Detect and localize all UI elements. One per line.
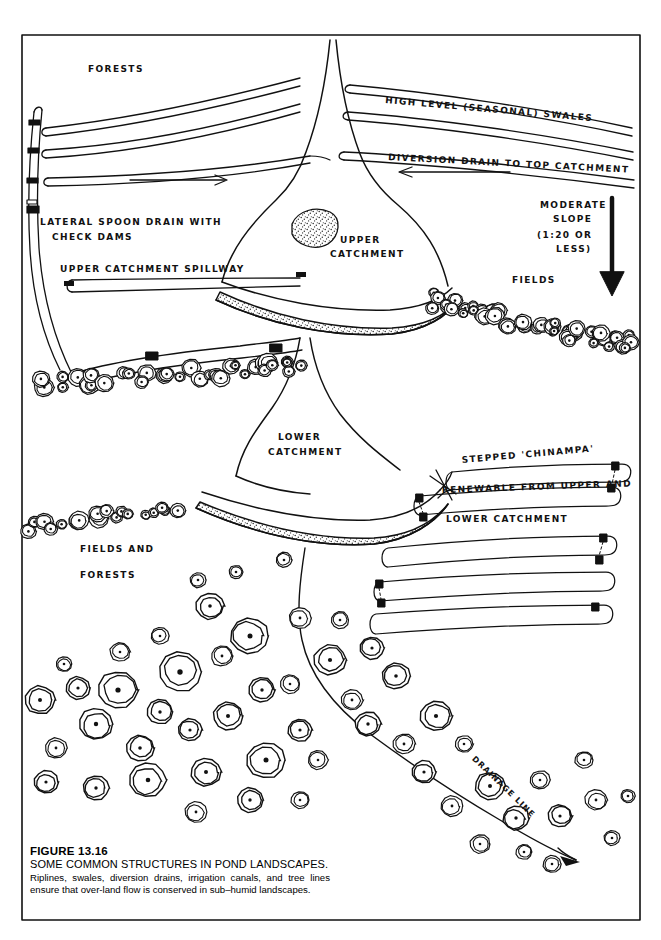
label-lower-catchment-chinampa: LOWER CATCHMENT <box>446 514 568 524</box>
figure-caption-text: Riplines, swales, diversion drains, irri… <box>30 872 330 895</box>
label-forests-top: FORESTS <box>88 64 144 74</box>
label-moderate-slope-line1: MODERATE <box>540 200 607 210</box>
upper-drain-tie <box>310 156 330 160</box>
tree-plan-circle-icon-group <box>21 288 640 872</box>
label-fields-forests-line2: FORESTS <box>80 570 136 580</box>
label-diversion-drain: DIVERSION DRAIN TO TOP CATCHMENT <box>388 152 630 175</box>
label-lateral-drain-line2: CHECK DAMS <box>52 232 133 242</box>
label-fields-right: FIELDS <box>512 275 556 285</box>
label-upper-spillway: UPPER CATCHMENT SPILLWAY <box>60 264 245 274</box>
label-upper-catchment-line1: UPPER <box>340 235 381 245</box>
label-fields-forests-line1: FIELDS AND <box>80 544 154 554</box>
label-moderate-slope-line3: (1:20 OR <box>537 230 592 240</box>
diagram-canvas: FORESTS HIGH LEVEL (SEASONAL) SWALES DIV… <box>0 0 661 940</box>
label-moderate-slope-line2: SLOPE <box>553 214 592 224</box>
slope-arrow-icon <box>600 198 624 296</box>
label-moderate-slope-line4: LESS) <box>556 244 592 254</box>
label-renewable: RENEWABLE FROM UPPER AND <box>442 478 632 495</box>
label-lower-catchment-line2: CATCHMENT <box>268 447 343 457</box>
swales-left <box>42 78 310 186</box>
upper-catchment-rock <box>292 209 338 247</box>
label-upper-catchment-line2: CATCHMENT <box>330 249 405 259</box>
figure-caption-block: FIGURE 13.16 SOME COMMON STRUCTURES IN P… <box>30 845 330 895</box>
label-lower-catchment-line1: LOWER <box>278 432 321 442</box>
upper-dam-wall <box>216 282 458 335</box>
label-stepped-chinampa: STEPPED 'CHINAMPA' <box>461 443 594 465</box>
label-lateral-drain-line1: LATERAL SPOON DRAIN WITH <box>40 217 222 227</box>
figure-number: FIGURE 13.16 <box>30 845 330 857</box>
flow-arrow-left-icon <box>399 167 510 177</box>
upper-catchment-spillway <box>64 272 306 292</box>
figure-title: SOME COMMON STRUCTURES IN POND LANDSCAPE… <box>30 858 330 870</box>
lower-dam-wall <box>196 476 448 545</box>
figure-page: FORESTS HIGH LEVEL (SEASONAL) SWALES DIV… <box>0 0 661 940</box>
